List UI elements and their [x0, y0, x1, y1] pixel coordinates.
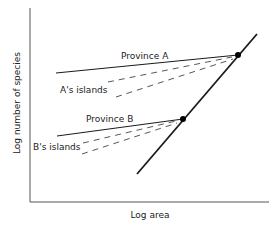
province-a-label: Province A — [121, 51, 169, 61]
b-island-dashed-1 — [83, 121, 176, 143]
province-a-point — [235, 52, 241, 58]
b-islands-label: B's islands — [33, 142, 81, 152]
a-island-dashed-2 — [116, 59, 233, 97]
species-area-diagram: Province A A's islands Province B B's is… — [0, 0, 276, 226]
b-island-dashed-2 — [82, 123, 177, 154]
a-islands-label: A's islands — [60, 85, 108, 95]
province-b-point — [180, 116, 186, 122]
y-axis-label: Log number of species — [12, 52, 22, 154]
province-b-label: Province B — [86, 114, 133, 124]
x-axis-label: Log area — [130, 210, 169, 220]
